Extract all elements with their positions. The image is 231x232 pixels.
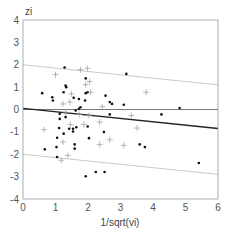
dot-point — [78, 98, 81, 101]
dot-point — [51, 96, 54, 99]
data-points — [41, 65, 200, 177]
y-axis-label: zi — [25, 6, 32, 17]
dot-point — [65, 86, 68, 89]
dot-point — [84, 175, 87, 178]
dot-point — [111, 103, 114, 106]
x-axis-label: 1/sqrt(vi) — [101, 217, 140, 228]
reference-lines — [23, 65, 218, 175]
cross-point — [63, 109, 69, 115]
x-tick-label: 1 — [53, 202, 59, 213]
dot-point — [108, 101, 111, 104]
dot-point — [56, 136, 59, 139]
dot-point — [198, 162, 201, 165]
upper-band — [23, 65, 218, 85]
dot-point — [86, 125, 89, 128]
cross-point — [99, 104, 105, 110]
dot-point — [73, 147, 76, 150]
y-tick-label: -4 — [10, 194, 19, 205]
x-tick-label: 4 — [150, 202, 156, 213]
dot-point — [72, 97, 75, 100]
dot-point — [75, 126, 78, 129]
x-tick-label: 0 — [20, 202, 26, 213]
cross-point — [97, 141, 103, 147]
cross-point — [65, 152, 71, 158]
cross-point — [88, 89, 94, 95]
regression-line — [23, 108, 218, 128]
dot-point — [41, 92, 44, 95]
dot-point — [72, 130, 75, 133]
dot-point — [63, 66, 66, 69]
cross-point — [67, 121, 73, 127]
dot-point — [108, 113, 111, 116]
cross-point — [128, 113, 134, 119]
dot-point — [62, 91, 65, 94]
dot-point — [72, 127, 75, 130]
cross-point — [68, 91, 74, 97]
dot-point — [62, 132, 65, 135]
dot-point — [84, 99, 87, 102]
cross-point — [134, 125, 140, 131]
lower-band — [23, 154, 218, 174]
dot-point — [138, 143, 141, 146]
dot-point — [52, 99, 55, 102]
dot-point — [103, 171, 106, 174]
cross-point — [81, 121, 87, 127]
dot-point — [58, 127, 61, 130]
dot-point — [56, 156, 59, 159]
cross-point — [41, 127, 47, 133]
x-axis-ticks: 0123456 — [20, 202, 221, 213]
dot-point — [55, 146, 58, 149]
y-axis-ticks: 43210-1-2-3-4 — [10, 15, 19, 205]
dot-point — [79, 106, 82, 109]
dot-point — [103, 131, 106, 134]
x-tick-label: 6 — [215, 202, 221, 213]
cross-point — [143, 89, 149, 95]
dot-point — [178, 107, 181, 110]
dot-point — [73, 143, 76, 146]
dot-point — [43, 148, 46, 151]
y-tick-label: -3 — [10, 171, 19, 182]
dot-point — [64, 116, 67, 119]
x-tick-label: 3 — [118, 202, 124, 213]
cross-point — [87, 79, 93, 85]
dot-point — [88, 137, 91, 140]
cross-point — [60, 101, 66, 107]
x-tick-label: 5 — [183, 202, 189, 213]
dot-point — [68, 127, 71, 130]
cross-point — [83, 82, 89, 88]
dot-point — [160, 113, 163, 116]
cross-point — [84, 65, 90, 71]
cross-point — [60, 139, 66, 145]
dot-point — [95, 171, 98, 174]
radial-plot: 0123456 43210-1-2-3-4 1/sqrt(vi) zi — [0, 0, 231, 232]
dot-point — [104, 94, 107, 97]
dot-point — [84, 77, 87, 80]
cross-point — [107, 137, 113, 143]
cross-point — [53, 72, 59, 78]
dot-point — [144, 146, 147, 149]
cross-point — [97, 119, 103, 125]
dot-point — [74, 109, 77, 112]
y-tick-label: 1 — [13, 82, 19, 93]
dot-point — [58, 118, 61, 121]
cross-point — [78, 67, 84, 73]
y-tick-label: 4 — [13, 15, 19, 26]
cross-point — [86, 113, 92, 119]
y-tick-label: 3 — [13, 37, 19, 48]
dot-point — [122, 104, 125, 107]
cross-point — [121, 142, 127, 148]
cross-point — [77, 111, 83, 117]
y-tick-label: 0 — [13, 104, 19, 115]
dot-point — [125, 73, 128, 76]
y-tick-label: -1 — [10, 126, 19, 137]
y-tick-label: -2 — [10, 149, 19, 160]
y-tick-label: 2 — [13, 59, 19, 70]
cross-point — [67, 99, 73, 105]
dot-point — [58, 112, 61, 115]
x-tick-label: 2 — [85, 202, 91, 213]
